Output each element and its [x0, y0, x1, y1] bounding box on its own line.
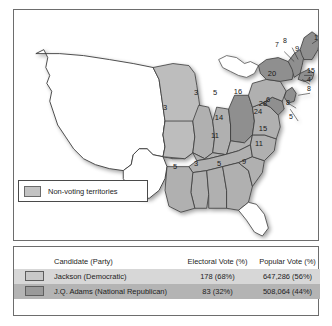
- vote-label-connecticut: 4: [307, 76, 311, 83]
- cell-candidate: Jackson (Democratic): [54, 269, 180, 284]
- vote-label-vermont: 7: [275, 41, 279, 48]
- cell-candidate: J.Q. Adams (National Republican): [54, 284, 180, 299]
- vote-label-new-york: 20: [268, 70, 276, 78]
- region-florida: [239, 202, 269, 236]
- us-map-svg: [14, 10, 318, 240]
- vote-label-missouri: 3: [163, 104, 167, 112]
- vote-label-louisiana: 5: [173, 163, 177, 171]
- vote-label-alabama: 5: [217, 160, 221, 168]
- table-body: Jackson (Democratic) 178 (68%) 647,286 (…: [14, 269, 320, 299]
- table-row: Jackson (Democratic) 178 (68%) 647,286 (…: [14, 269, 320, 284]
- state-missouri: [163, 121, 195, 159]
- vote-label-new-hampshire: 8: [283, 37, 287, 44]
- vote-label-illinois: 3: [194, 89, 198, 97]
- map-canvas: [14, 10, 318, 240]
- vote-label-maryland: 6: [266, 96, 270, 104]
- vote-label-massachusetts: 1: [314, 34, 318, 41]
- map-legend: Non-voting territories: [18, 180, 148, 202]
- election-map-figure: 3351614113595112415282069781154885 Non-v…: [0, 0, 332, 326]
- cell-electoral-vote: 83 (32%): [180, 284, 255, 299]
- legend-swatch-nonvoting: [24, 186, 41, 197]
- map-panel: 3351614113595112415282069781154885: [13, 9, 319, 241]
- cell-popular-vote: 508,064 (44%): [255, 284, 320, 299]
- cell-popular-vote: 647,286 (56%): [255, 269, 320, 284]
- vote-label-indiana: 5: [213, 89, 217, 97]
- vote-label-north-carolina: 11: [255, 140, 263, 148]
- vote-label-rhode-island: 15: [307, 67, 315, 74]
- results-table: Candidate (Party) Electoral Vote (%) Pop…: [14, 254, 320, 299]
- vote-label-maine: 9: [295, 45, 299, 53]
- results-table-panel: Candidate (Party) Electoral Vote (%) Pop…: [13, 246, 319, 316]
- header-electoral-vote: Electoral Vote (%): [180, 254, 255, 269]
- vote-label-south-carolina: 15: [259, 125, 267, 133]
- region-great-lakes: [219, 56, 259, 78]
- vote-label-kentucky: 14: [215, 114, 223, 122]
- table-head: Candidate (Party) Electoral Vote (%) Pop…: [14, 254, 320, 269]
- header-candidate: Candidate (Party): [54, 254, 180, 269]
- vote-label-virginia: 24: [254, 108, 262, 116]
- table-row: J.Q. Adams (National Republican) 83 (32%…: [14, 284, 320, 299]
- swatch-adams: [25, 286, 44, 296]
- row-swatch-cell: [14, 269, 54, 284]
- header-popular-vote: Popular Vote (%): [255, 254, 320, 269]
- legend-label-nonvoting: Non-voting territories: [48, 187, 118, 196]
- vote-label-tennessee: 11: [211, 132, 219, 140]
- swatch-jackson: [25, 271, 44, 281]
- vote-label-delaware-b: 5: [289, 113, 293, 120]
- header-swatch-spacer: [14, 254, 54, 269]
- cell-electoral-vote: 178 (68%): [180, 269, 255, 284]
- vote-label-delaware-a: 8: [286, 99, 290, 106]
- row-swatch-cell: [14, 284, 54, 299]
- state-louisiana: [165, 167, 195, 213]
- vote-label-new-jersey: 8: [307, 85, 311, 92]
- vote-label-georgia: 9: [242, 158, 246, 166]
- table-header-row: Candidate (Party) Electoral Vote (%) Pop…: [14, 254, 320, 269]
- vote-label-ohio: 16: [234, 88, 242, 96]
- vote-label-mississippi: 3: [194, 160, 198, 168]
